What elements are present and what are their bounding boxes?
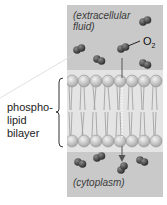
o2-molecule [74, 158, 86, 168]
bilayer-label: phospho- lipid bilayer [7, 101, 53, 140]
extracellular-label: (extracellular fluid) [73, 10, 130, 32]
o2-molecule [117, 43, 129, 53]
o2-label-symbol: O [143, 35, 152, 47]
bilayer-label-line1: phospho- [7, 101, 53, 114]
extracellular-label-line1: (extracellular [73, 10, 130, 21]
bilayer-label-line3: bilayer [7, 127, 53, 140]
o2-molecule [93, 152, 105, 162]
o2-label: O2 [143, 35, 155, 49]
o2-molecule [73, 44, 85, 54]
o2-molecule [136, 156, 148, 166]
arrow-head [119, 155, 126, 162]
o2-molecule [139, 16, 151, 26]
o2-molecule [117, 162, 128, 174]
o2-label-subscript: 2 [152, 42, 156, 49]
o2-pointer-line [128, 41, 140, 46]
o2-molecule [139, 59, 151, 69]
extracellular-label-line2: fluid) [73, 21, 130, 32]
leader-line [0, 52, 78, 98]
bilayer-bracket [56, 78, 63, 147]
bilayer-label-line2: lipid [7, 114, 53, 127]
cytoplasm-label: (cytoplasm) [73, 177, 125, 188]
o2-molecule [93, 55, 105, 65]
